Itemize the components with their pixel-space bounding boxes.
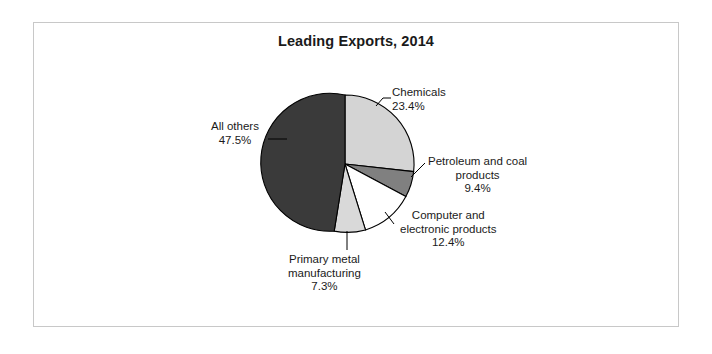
slice-label-computer-value: 12.4%: [400, 236, 497, 250]
slice-label-petroleum-name-line1: Petroleum and coal: [428, 155, 527, 169]
slice-label-chemicals: Chemicals 23.4%: [392, 86, 446, 113]
slice-label-chemicals-name: Chemicals: [392, 86, 446, 100]
slice-label-all-others-name: All others: [211, 120, 259, 134]
slice-label-petroleum-value: 9.4%: [428, 182, 527, 196]
pie-svg: [0, 0, 712, 354]
slice-label-primary-metal-name-line2: manufacturing: [288, 267, 361, 281]
slice-label-chemicals-value: 23.4%: [392, 100, 446, 114]
slice-label-all-others: All others 47.5%: [211, 120, 259, 147]
slice-label-computer-name-line2: electronic products: [400, 223, 497, 237]
pie-slice-all-others[interactable]: [261, 93, 345, 231]
slice-label-all-others-value: 47.5%: [211, 134, 259, 148]
slice-label-primary-metal-manufacturing: Primary metal manufacturing 7.3%: [288, 253, 361, 294]
slice-label-petroleum-name-line2: products: [428, 169, 527, 183]
pie-chart-figure: Leading Exports, 2014 Chemicals 23.4%: [0, 0, 712, 354]
slice-label-computer-and-electronic-products: Computer and electronic products 12.4%: [400, 209, 497, 250]
slice-label-primary-metal-name-line1: Primary metal: [288, 253, 361, 267]
slice-label-petroleum-and-coal-products: Petroleum and coal products 9.4%: [428, 155, 527, 196]
slice-label-computer-name-line1: Computer and: [400, 209, 497, 223]
pie-slices: [261, 93, 414, 232]
slice-label-primary-metal-value: 7.3%: [288, 280, 361, 294]
